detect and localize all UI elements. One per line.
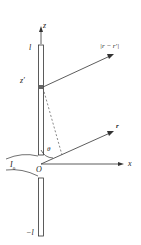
r-vector [41,133,110,164]
theta-label: θ [47,146,50,153]
r-diff-vector [43,56,110,87]
r-diff-label: |r − r′| [100,43,119,50]
r-diff-arrowhead [107,54,114,59]
current-label: I0 [10,161,15,171]
upper-antenna-rod [39,45,44,155]
current-subscript: 0 [13,166,16,171]
lower-antenna-rod [39,178,44,236]
dashed-projection [43,88,62,155]
x-axis-arrowhead [118,162,124,166]
element-position-label: z′ [20,77,25,85]
top-end-label: l [29,44,31,52]
antenna-diagram [0,0,141,245]
z-axis-label: z [43,22,46,30]
origin-label: O [36,166,42,174]
x-axis-label: x [128,160,132,168]
bottom-end-label: −l [26,229,34,237]
r-vector-arrowhead [107,131,114,136]
r-vector-label: r [116,123,119,130]
feed-curve-upper [6,155,38,159]
